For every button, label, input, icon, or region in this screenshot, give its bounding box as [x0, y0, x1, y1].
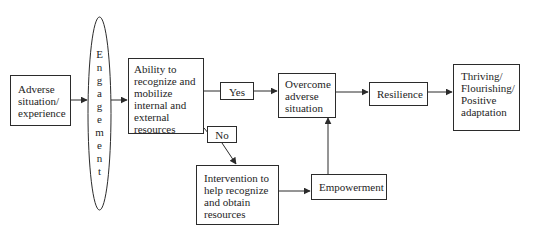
node-intervention: Intervention to help recognize and obtai… — [196, 165, 279, 225]
node-overcome-adverse-situation: Overcome adverse situation — [278, 73, 336, 118]
node-overcome-line-2: adverse — [285, 90, 335, 102]
node-ability-line-6: resources — [134, 123, 203, 135]
node-ability-line-3: mobilize — [134, 87, 203, 99]
node-ability-line-1: Ability to — [134, 63, 203, 75]
node-ability-line-4: internal and — [134, 99, 203, 111]
engagement-letter: n — [88, 152, 111, 165]
engagement-letter: g — [88, 100, 111, 113]
engagement-letter: e — [88, 139, 111, 152]
node-resilience-line-1: Resilience — [377, 88, 427, 100]
no-label-text: No — [215, 129, 228, 141]
node-adverse-line-1: Adverse — [18, 83, 70, 95]
engagement-label: E n g a g e m e n t — [88, 48, 111, 178]
node-adverse-line-3: experience — [18, 107, 70, 119]
node-overcome-line-1: Overcome — [285, 78, 335, 90]
node-thriving: Thriving/ Flourishing/ Positive adaptati… — [453, 64, 520, 131]
node-overcome-line-3: situation — [285, 102, 335, 114]
edge-label-no: No — [207, 126, 237, 143]
node-empowerment: Empowerment — [311, 174, 387, 200]
node-thriving-line-4: adaptation — [461, 106, 519, 118]
engagement-letter: a — [88, 87, 111, 100]
node-resilience: Resilience — [369, 82, 428, 106]
engagement-letter: e — [88, 113, 111, 126]
node-ability-line-5: external — [134, 111, 203, 123]
arrow-no-to-intervention — [222, 143, 236, 164]
node-intervention-line-2: help recognize — [204, 184, 278, 196]
engagement-letter: E — [88, 48, 111, 61]
node-ability-line-2: recognize and — [134, 75, 203, 87]
node-thriving-line-3: Positive — [461, 94, 519, 106]
engagement-letter: m — [88, 126, 111, 139]
node-intervention-line-4: resources — [204, 208, 278, 220]
engagement-letter: g — [88, 74, 111, 87]
node-empowerment-line-1: Empowerment — [319, 181, 386, 193]
node-adverse-line-2: situation/ — [18, 95, 70, 107]
engagement-letter: t — [88, 165, 111, 178]
node-ability-to-recognize: Ability to recognize and mobilize intern… — [128, 58, 204, 134]
node-thriving-line-2: Flourishing/ — [461, 82, 519, 94]
node-intervention-line-1: Intervention to — [204, 172, 278, 184]
edge-label-yes: Yes — [220, 82, 254, 100]
node-adverse-situation: Adverse situation/ experience — [10, 75, 71, 126]
yes-label-text: Yes — [229, 86, 245, 98]
node-intervention-line-3: and obtain — [204, 196, 278, 208]
engagement-letter: n — [88, 61, 111, 74]
node-thriving-line-1: Thriving/ — [461, 70, 519, 82]
